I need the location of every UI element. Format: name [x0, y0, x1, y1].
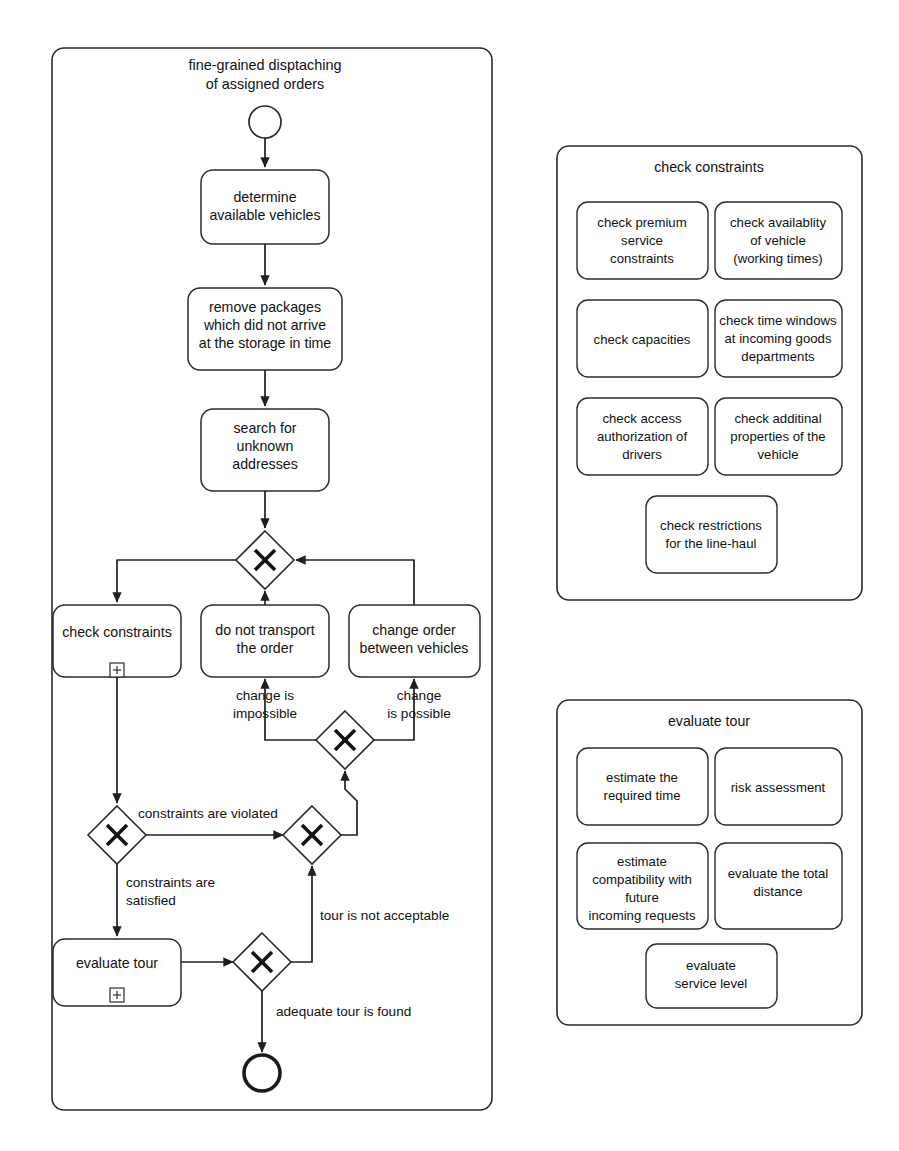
subtask-check-time-windows-line2: at incoming goods [724, 331, 831, 346]
subtask-check-premium-line1: check premium [597, 215, 686, 230]
task-change-order-line2: between vehicles [360, 640, 469, 656]
end-event [244, 1055, 280, 1091]
subtask-check-additional-line3: vehicle [757, 447, 798, 462]
pool-title-line1: fine-grained disptaching [189, 57, 342, 73]
task-search-line3: addresses [232, 456, 297, 472]
task-remove-line2: which did not arrive [203, 317, 326, 333]
subtask-estimate-compatibility-line1: estimate [617, 854, 667, 869]
start-event [249, 106, 281, 138]
edge-label-change-possible-line2: is possible [387, 706, 450, 721]
bpmn-diagram-page: fine-grained disptaching of assigned ord… [0, 0, 899, 1151]
subtask-check-access-line3: drivers [622, 447, 662, 462]
subtask-check-time-windows-line3: departments [741, 349, 815, 364]
subtask-check-access-line1: check access [602, 411, 682, 426]
panel-check-constraints-title: check constraints [654, 159, 764, 175]
edge-label-change-impossible-line1: change is [236, 688, 294, 703]
flow-gateway-to-check-constraints [117, 560, 236, 602]
flow-merge-to-change-gateway [341, 771, 357, 835]
subtask-check-additional-line2: properties of the [730, 429, 825, 444]
edge-label-tour-not-acceptable: tour is not acceptable [320, 908, 449, 923]
edge-label-constraints-satisfied-line1: constraints are [126, 875, 215, 890]
task-change-order-line1: change order [372, 622, 456, 638]
subtask-check-premium-line2: service [621, 233, 663, 248]
edge-label-change-possible-line1: change [397, 688, 442, 703]
subtask-estimate-time-line1: estimate the [606, 770, 678, 785]
subtask-evaluate-service-level-line1: evaluate [686, 958, 736, 973]
subtask-check-availability-line2: of vehicle [750, 233, 806, 248]
subtask-risk-assessment-label: risk assessment [731, 780, 826, 795]
subtask-check-premium-line3: constraints [610, 251, 674, 266]
edge-label-adequate-tour-found: adequate tour is found [276, 1004, 411, 1019]
subtask-estimate-time-line2: required time [604, 788, 681, 803]
edge-label-change-impossible-line2: impossible [233, 706, 297, 721]
subtask-check-time-windows-line1: check time windows [719, 313, 837, 328]
task-do-not-transport-line1: do not transport [215, 622, 314, 638]
task-do-not-transport-line2: the order [237, 640, 294, 656]
flow-tour-not-acceptable-to-merge [291, 866, 312, 962]
subtask-estimate-time [577, 748, 708, 825]
edge-label-constraints-satisfied-line2: satisfied [126, 893, 176, 908]
subtask-evaluate-distance-line2: distance [753, 884, 802, 899]
task-search-line1: search for [233, 420, 296, 436]
subtask-estimate-compatibility-line2: compatibility with [592, 872, 692, 887]
subtask-evaluate-distance-line1: evaluate the total [728, 866, 829, 881]
subtask-check-availability-line3: (working times) [733, 251, 822, 266]
subtask-check-access-line2: authorization of [597, 429, 688, 444]
task-determine-line1: determine [233, 189, 296, 205]
task-remove-line3: at the storage in time [199, 335, 332, 351]
subtask-check-capacities-label: check capacities [594, 332, 691, 347]
subtask-evaluate-service-level-line2: service level [675, 976, 748, 991]
panel-evaluate-tour-title: evaluate tour [668, 713, 750, 729]
subtask-check-restrictions [646, 496, 777, 573]
process-diagram-canvas: fine-grained disptaching of assigned ord… [0, 0, 899, 1151]
subtask-estimate-compatibility-line3: future [625, 890, 659, 905]
subtask-check-restrictions-line1: check restrictions [660, 518, 762, 533]
task-evaluate-tour-label: evaluate tour [76, 955, 158, 971]
subtask-estimate-compatibility-line4: incoming requests [588, 908, 695, 923]
flow-change-order-to-gateway [296, 560, 414, 605]
task-remove-line1: remove packages [209, 299, 321, 315]
subtask-check-restrictions-line2: for the line-haul [666, 536, 757, 551]
task-search-line2: unknown [237, 438, 294, 454]
pool-title-line2: of assigned orders [206, 76, 324, 92]
task-determine-line2: available vehicles [209, 207, 320, 223]
subtask-check-additional-line1: check additinal [734, 411, 821, 426]
edge-label-constraints-violated: constraints are violated [138, 806, 278, 821]
subtask-check-availability-line1: check availablity [730, 215, 826, 230]
task-check-constraints-label: check constraints [62, 624, 172, 640]
